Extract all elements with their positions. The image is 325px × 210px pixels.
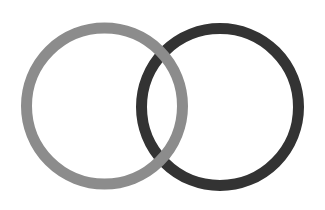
left-ring-gray: [27, 28, 183, 184]
interlocking-rings-diagram: [0, 0, 325, 210]
diagram-canvas: [0, 0, 325, 210]
